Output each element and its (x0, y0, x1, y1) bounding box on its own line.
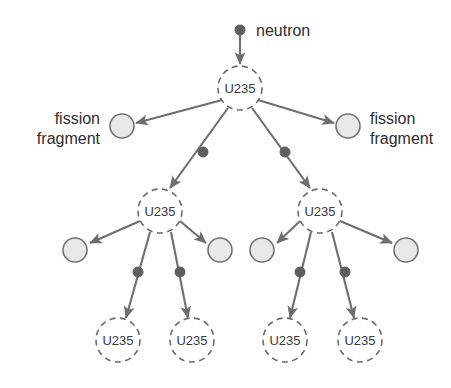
neutron-dot (340, 267, 350, 277)
u235-nucleus: U235 (170, 318, 214, 362)
u235-nucleus-label: U235 (176, 333, 207, 348)
diagram-caption-cap-ff-right-1: fission (370, 110, 415, 127)
diagram-caption-cap-ff-left-1: fission (55, 110, 100, 127)
neutron-layer (133, 25, 350, 277)
fission-fragment-circle (63, 238, 87, 262)
u235-nucleus: U235 (138, 189, 182, 233)
neutron-dot (280, 147, 290, 157)
u235-nucleus-label: U235 (304, 204, 335, 219)
neutron-dot (133, 267, 143, 277)
fission-fragment-circle (208, 238, 232, 262)
fission-arrow (258, 100, 334, 123)
u235-nucleus: U235 (338, 318, 382, 362)
fission-arrow (136, 100, 222, 123)
fission-arrow (340, 221, 392, 243)
fission-arrow (90, 221, 140, 243)
diagram-caption-cap-neutron: neutron (256, 22, 310, 39)
fission-chain-diagram: U235U235U235U235U235U235U235 neutronfiss… (0, 0, 451, 388)
u235-nucleus-label: U235 (269, 333, 300, 348)
fission-fragment-circle (250, 238, 274, 262)
fission-diagram-canvas: U235U235U235U235U235U235U235 neutronfiss… (0, 0, 451, 388)
neutron-dot (198, 147, 208, 157)
fragment-layer (63, 114, 418, 262)
u235-nucleus: U235 (263, 318, 307, 362)
neutron-dot (175, 267, 185, 277)
u235-nucleus-label: U235 (224, 81, 255, 96)
fission-arrow (277, 221, 300, 243)
u235-nucleus: U235 (218, 66, 262, 110)
fission-fragment-circle (336, 114, 360, 138)
fission-arrow (170, 108, 228, 188)
fission-arrow (180, 221, 206, 243)
diagram-caption-cap-ff-right-2: fragment (370, 130, 434, 147)
u235-nucleus-label: U235 (344, 333, 375, 348)
u235-nucleus: U235 (298, 189, 342, 233)
neutron-dot (295, 267, 305, 277)
u235-nucleus-label: U235 (102, 333, 133, 348)
u235-nucleus: U235 (96, 318, 140, 362)
neutron-dot (235, 25, 245, 35)
nucleus-layer: U235U235U235U235U235U235U235 (96, 66, 382, 362)
u235-nucleus-label: U235 (144, 204, 175, 219)
diagram-caption-cap-ff-left-2: fragment (37, 130, 101, 147)
fission-arrow (252, 108, 310, 188)
fission-fragment-circle (394, 238, 418, 262)
fission-fragment-circle (110, 114, 134, 138)
